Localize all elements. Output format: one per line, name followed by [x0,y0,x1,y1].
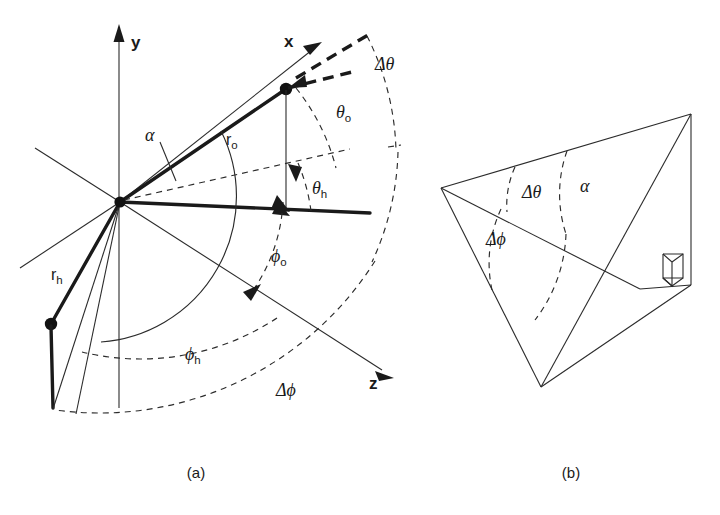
axis-negative-stubs [20,148,120,414]
label-b-alpha: α [580,176,590,196]
arc-b-alpha [560,151,567,234]
label-theta-o: θo [336,102,351,124]
phi-o-arc-head [271,195,290,212]
caption-panel-a: (a) [187,464,205,481]
label-theta-h: θh [312,178,327,200]
arc-alpha [101,131,236,342]
thick-dashed-direction [288,35,368,88]
label-b-delta-theta: Δθ [521,182,542,202]
in-plane-thick-ray [120,202,370,216]
vector-r-o [120,83,292,213]
label-x-axis: x [284,32,294,51]
arc-phi-h [82,318,277,359]
arc-theta-o [296,88,336,168]
figure-container: y x z ro rh α θo θh Δθ ϕo ϕh Δϕ [0,0,720,515]
point-origin [114,196,125,207]
arc-b-delta-theta [507,167,515,212]
label-z-axis: z [369,374,378,393]
label-phi-o: ϕo [271,246,287,268]
label-phi-h: ϕh [185,344,201,366]
delta-theta-tick-upper [388,145,401,147]
caption-panel-b: (b) [562,464,580,481]
label-delta-phi: Δϕ [275,380,296,400]
label-b-delta-phi: Δϕ [485,229,506,249]
label-alpha: α [145,125,155,145]
right-angle-marker [663,254,683,286]
panel-b-group: Δθ α Δϕ [441,114,691,387]
r-h-drop-line [51,326,53,408]
label-r-h: rh [51,266,63,286]
vector-r-h [45,202,120,409]
arc-b-delta-phi [489,209,501,290]
figure-svg: y x z ro rh α θo θh Δθ ϕo ϕh Δϕ [0,0,720,515]
label-y-axis: y [131,33,141,52]
label-delta-theta: Δθ [374,54,395,74]
panel-a-group: y x z ro rh α θo θh Δθ ϕo ϕh Δϕ [20,24,401,414]
arc-b-lower-extension [535,234,566,320]
